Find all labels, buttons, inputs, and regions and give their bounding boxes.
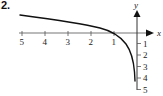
y-tick-label: 5: [143, 85, 148, 95]
x-tick-labels: 5 4 3 2 1: [20, 37, 117, 47]
y-tick-label: 4: [143, 73, 148, 83]
x-axis-label: x: [156, 28, 161, 38]
y-tick-labels: 1 2 3 4 5: [143, 39, 148, 95]
x-axis-arrow-icon: [146, 30, 154, 37]
x-tick-label: 4: [43, 37, 48, 47]
y-tick-label: 3: [143, 62, 148, 72]
y-axis-label: y: [133, 0, 138, 10]
x-tick-label: 1: [112, 37, 117, 47]
x-tick-label: 3: [66, 37, 71, 47]
y-tick-label: 1: [143, 39, 148, 49]
y-axis-arrow-icon: [134, 10, 141, 17]
x-tick-label: 5: [20, 37, 25, 47]
graph: x y 5 4 3 2 1 1 2 3 4 5: [0, 0, 163, 96]
y-tick-label: 2: [143, 50, 148, 60]
y-ticks: [137, 44, 141, 90]
function-curve: [20, 15, 135, 81]
x-tick-label: 2: [89, 37, 94, 47]
